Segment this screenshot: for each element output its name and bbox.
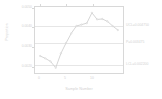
series-line — [40, 13, 118, 68]
y-tick-label: 0.0040 — [12, 24, 32, 28]
data-point — [96, 19, 97, 20]
data-point — [65, 42, 66, 43]
control-chart: Proportion 0.0050 0.0040 0.0030 0.0020 0… — [0, 0, 162, 99]
data-point — [50, 61, 51, 62]
data-point — [55, 67, 56, 68]
control-limit-annotations: UCL=0.004750 P=0.003475 LCL=0.002200 — [126, 0, 162, 99]
data-point — [86, 23, 87, 24]
y-axis-tick-labels: 0.0050 0.0040 0.0030 0.0020 — [12, 0, 32, 99]
y-tick-label: 0.0030 — [12, 44, 32, 48]
y-tick-label: 0.0050 — [12, 5, 32, 9]
x-axis-title: Sample Number — [34, 87, 124, 91]
data-point — [76, 25, 77, 26]
plot-area — [34, 6, 124, 74]
x-tick-label: 0 — [38, 76, 40, 80]
data-point — [81, 24, 82, 25]
data-point — [71, 33, 72, 34]
data-point — [45, 58, 46, 59]
series-plot — [35, 7, 123, 73]
data-point — [112, 25, 113, 26]
y-tick-label: 0.0020 — [12, 64, 32, 68]
ucl-annotation: UCL=0.004750 — [126, 23, 149, 27]
data-point — [91, 12, 92, 13]
data-point — [107, 21, 108, 22]
data-point — [60, 53, 61, 54]
x-tick-label: 5 — [64, 76, 66, 80]
center-line-annotation: P=0.003475 — [126, 40, 144, 44]
data-point — [39, 55, 40, 56]
lcl-annotation: LCL=0.002200 — [126, 62, 148, 66]
y-axis-title: Proportion — [5, 9, 9, 55]
data-point — [102, 18, 103, 19]
x-axis-tick-labels: 0 5 10 — [34, 76, 124, 84]
data-point — [117, 29, 118, 30]
x-tick-label: 10 — [90, 76, 94, 80]
